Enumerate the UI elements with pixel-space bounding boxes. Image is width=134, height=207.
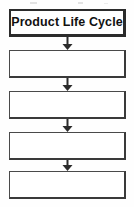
flow-node-blank-1[interactable] [9, 50, 126, 78]
product-life-cycle-flowchart: Product Life Cycle [0, 0, 134, 207]
scan-artifact [104, 3, 108, 4]
flow-arrow-down [62, 78, 73, 91]
flow-arrow-down [62, 160, 73, 171]
flow-node-blank-4[interactable] [9, 171, 126, 199]
flow-node-title[interactable]: Product Life Cycle [9, 9, 126, 37]
flow-node-blank-2[interactable] [9, 91, 126, 119]
flow-node-label: Product Life Cycle [11, 16, 123, 29]
flow-node-blank-3[interactable] [9, 132, 126, 160]
scan-artifact [30, 2, 37, 4]
scan-artifact [78, 2, 83, 4]
flow-arrow-down [62, 37, 73, 50]
flow-arrow-down [62, 119, 73, 132]
